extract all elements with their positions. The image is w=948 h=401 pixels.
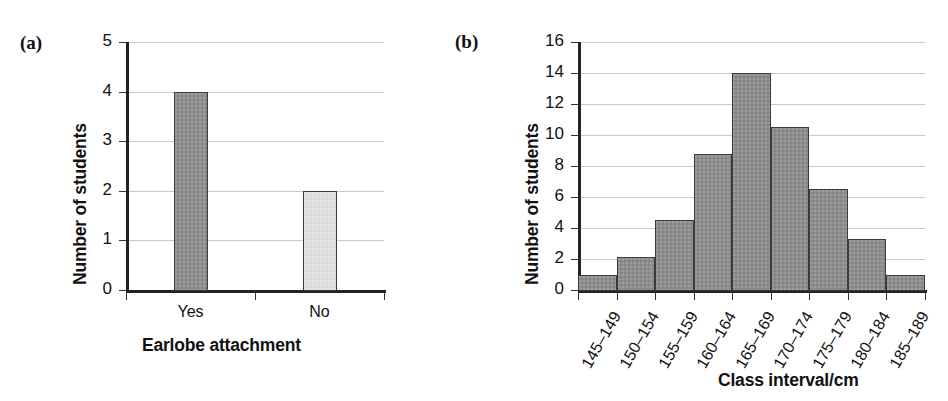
x-axis-title-b: Class interval/cm — [718, 370, 859, 391]
gridline — [126, 240, 384, 241]
plot-area-a: 012345YesNo — [126, 42, 384, 290]
x-tick-mark — [655, 292, 656, 300]
y-tick-mark — [119, 141, 126, 142]
figure-two-charts: (a) Number of students 012345YesNo Earlo… — [0, 0, 948, 401]
bar — [886, 275, 925, 292]
y-tick-mark — [571, 290, 578, 291]
y-tick-label: 5 — [80, 31, 112, 51]
x-tick-mark — [809, 292, 810, 300]
y-tick-mark — [571, 135, 578, 136]
y-tick-mark — [571, 166, 578, 167]
x-tick-mark — [384, 292, 385, 300]
y-tick-label: 0 — [80, 279, 112, 299]
y-tick-mark — [119, 42, 126, 43]
gridline — [126, 141, 384, 142]
gridline — [126, 92, 384, 93]
y-tick-mark — [571, 42, 578, 43]
x-axis-title-a: Earlobe attachment — [142, 335, 301, 356]
y-tick-label: 1 — [80, 229, 112, 249]
x-tick-mark — [732, 292, 733, 300]
x-tick-mark — [578, 292, 579, 300]
bar — [174, 92, 208, 291]
y-axis-line — [126, 42, 129, 291]
panel-label-a: (a) — [20, 32, 42, 54]
y-tick-label: 10 — [532, 124, 564, 144]
x-tick-mark — [848, 292, 849, 300]
plot-area-b: 0246810121416145–149150–154155–159160–16… — [578, 42, 925, 290]
x-tick-label: Yes — [126, 303, 255, 321]
y-tick-mark — [571, 73, 578, 74]
y-tick-label: 16 — [532, 31, 564, 51]
y-tick-mark — [119, 290, 126, 291]
bar — [655, 220, 694, 291]
bar — [848, 239, 887, 291]
gridline — [126, 191, 384, 192]
y-tick-mark — [571, 104, 578, 105]
bar — [617, 257, 656, 291]
bar — [809, 189, 848, 291]
y-tick-label: 14 — [532, 62, 564, 82]
y-tick-label: 2 — [532, 248, 564, 268]
panel-label-b: (b) — [455, 31, 478, 53]
y-tick-label: 2 — [80, 180, 112, 200]
x-axis-line — [126, 290, 386, 293]
y-tick-label: 6 — [532, 186, 564, 206]
y-tick-label: 12 — [532, 93, 564, 113]
y-tick-mark — [571, 197, 578, 198]
bar — [694, 154, 733, 291]
y-tick-mark — [119, 191, 126, 192]
gridline — [578, 42, 925, 43]
y-tick-mark — [571, 228, 578, 229]
y-tick-mark — [571, 259, 578, 260]
y-tick-mark — [119, 92, 126, 93]
y-tick-label: 4 — [80, 81, 112, 101]
x-tick-mark — [925, 292, 926, 300]
bar — [732, 73, 771, 291]
x-tick-mark — [771, 292, 772, 300]
x-tick-label: No — [255, 303, 384, 321]
y-tick-mark — [119, 240, 126, 241]
x-tick-mark — [886, 292, 887, 300]
bar — [771, 127, 810, 291]
x-tick-mark — [255, 292, 256, 300]
x-tick-mark — [617, 292, 618, 300]
y-tick-label: 0 — [532, 279, 564, 299]
y-tick-label: 4 — [532, 217, 564, 237]
y-tick-label: 3 — [80, 130, 112, 150]
y-axis-line — [578, 42, 581, 291]
bar — [303, 191, 337, 291]
x-tick-mark — [126, 292, 127, 300]
y-tick-label: 8 — [532, 155, 564, 175]
bar — [578, 275, 617, 292]
x-tick-mark — [694, 292, 695, 300]
gridline — [126, 42, 384, 43]
